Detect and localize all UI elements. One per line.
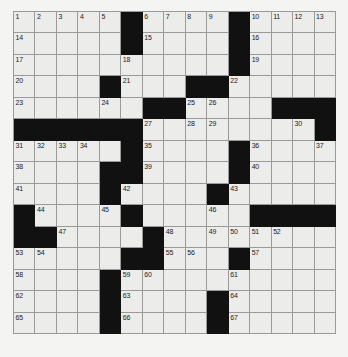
white-cell[interactable] <box>250 313 271 334</box>
white-cell[interactable] <box>315 55 336 76</box>
white-cell[interactable] <box>293 270 314 291</box>
white-cell[interactable] <box>186 141 207 162</box>
white-cell[interactable] <box>272 76 293 97</box>
white-cell[interactable] <box>35 291 56 312</box>
white-cell[interactable] <box>35 184 56 205</box>
white-cell[interactable] <box>272 184 293 205</box>
white-cell[interactable] <box>35 162 56 183</box>
white-cell[interactable]: 38 <box>14 162 35 183</box>
white-cell[interactable] <box>78 248 99 269</box>
white-cell[interactable] <box>143 184 164 205</box>
white-cell[interactable]: 28 <box>186 119 207 140</box>
white-cell[interactable]: 50 <box>229 227 250 248</box>
white-cell[interactable] <box>186 55 207 76</box>
white-cell[interactable] <box>250 184 271 205</box>
white-cell[interactable] <box>272 291 293 312</box>
white-cell[interactable] <box>250 98 271 119</box>
white-cell[interactable] <box>78 55 99 76</box>
white-cell[interactable] <box>100 55 121 76</box>
white-cell[interactable]: 55 <box>164 248 185 269</box>
white-cell[interactable] <box>315 270 336 291</box>
white-cell[interactable]: 61 <box>229 270 250 291</box>
white-cell[interactable]: 60 <box>143 270 164 291</box>
white-cell[interactable] <box>293 313 314 334</box>
white-cell[interactable]: 2 <box>35 12 56 33</box>
white-cell[interactable]: 45 <box>100 205 121 226</box>
white-cell[interactable]: 10 <box>250 12 271 33</box>
white-cell[interactable]: 15 <box>143 33 164 54</box>
white-cell[interactable]: 29 <box>207 119 228 140</box>
white-cell[interactable] <box>35 313 56 334</box>
white-cell[interactable] <box>143 291 164 312</box>
white-cell[interactable] <box>164 313 185 334</box>
white-cell[interactable] <box>100 141 121 162</box>
white-cell[interactable] <box>272 55 293 76</box>
white-cell[interactable] <box>57 184 78 205</box>
white-cell[interactable]: 44 <box>35 205 56 226</box>
white-cell[interactable]: 17 <box>14 55 35 76</box>
white-cell[interactable] <box>315 313 336 334</box>
white-cell[interactable]: 22 <box>229 76 250 97</box>
white-cell[interactable] <box>207 33 228 54</box>
white-cell[interactable] <box>293 141 314 162</box>
white-cell[interactable] <box>315 76 336 97</box>
white-cell[interactable] <box>272 33 293 54</box>
white-cell[interactable]: 7 <box>164 12 185 33</box>
white-cell[interactable] <box>57 248 78 269</box>
white-cell[interactable]: 42 <box>121 184 142 205</box>
white-cell[interactable]: 49 <box>207 227 228 248</box>
white-cell[interactable]: 36 <box>250 141 271 162</box>
white-cell[interactable] <box>207 270 228 291</box>
white-cell[interactable] <box>35 98 56 119</box>
white-cell[interactable]: 37 <box>315 141 336 162</box>
white-cell[interactable]: 64 <box>229 291 250 312</box>
white-cell[interactable]: 43 <box>229 184 250 205</box>
white-cell[interactable]: 63 <box>121 291 142 312</box>
white-cell[interactable] <box>315 184 336 205</box>
white-cell[interactable] <box>164 76 185 97</box>
white-cell[interactable] <box>164 162 185 183</box>
white-cell[interactable] <box>250 76 271 97</box>
white-cell[interactable]: 25 <box>186 98 207 119</box>
white-cell[interactable]: 51 <box>250 227 271 248</box>
white-cell[interactable] <box>293 76 314 97</box>
white-cell[interactable] <box>164 119 185 140</box>
white-cell[interactable] <box>57 33 78 54</box>
white-cell[interactable] <box>143 55 164 76</box>
white-cell[interactable] <box>272 248 293 269</box>
white-cell[interactable] <box>186 184 207 205</box>
white-cell[interactable]: 27 <box>143 119 164 140</box>
white-cell[interactable]: 4 <box>78 12 99 33</box>
white-cell[interactable]: 16 <box>250 33 271 54</box>
white-cell[interactable]: 56 <box>186 248 207 269</box>
white-cell[interactable]: 53 <box>14 248 35 269</box>
white-cell[interactable]: 30 <box>293 119 314 140</box>
white-cell[interactable] <box>164 184 185 205</box>
white-cell[interactable] <box>250 119 271 140</box>
white-cell[interactable] <box>57 98 78 119</box>
white-cell[interactable] <box>272 313 293 334</box>
white-cell[interactable] <box>315 248 336 269</box>
white-cell[interactable] <box>78 313 99 334</box>
white-cell[interactable] <box>121 98 142 119</box>
white-cell[interactable] <box>57 162 78 183</box>
white-cell[interactable]: 32 <box>35 141 56 162</box>
white-cell[interactable]: 20 <box>14 76 35 97</box>
white-cell[interactable]: 6 <box>143 12 164 33</box>
white-cell[interactable] <box>78 270 99 291</box>
white-cell[interactable] <box>186 33 207 54</box>
white-cell[interactable]: 54 <box>35 248 56 269</box>
white-cell[interactable] <box>315 162 336 183</box>
white-cell[interactable] <box>78 33 99 54</box>
white-cell[interactable]: 24 <box>100 98 121 119</box>
white-cell[interactable]: 13 <box>315 12 336 33</box>
white-cell[interactable] <box>186 205 207 226</box>
white-cell[interactable] <box>35 55 56 76</box>
white-cell[interactable] <box>250 270 271 291</box>
white-cell[interactable] <box>78 76 99 97</box>
white-cell[interactable] <box>57 270 78 291</box>
white-cell[interactable] <box>57 76 78 97</box>
white-cell[interactable]: 57 <box>250 248 271 269</box>
white-cell[interactable] <box>143 313 164 334</box>
white-cell[interactable] <box>164 291 185 312</box>
